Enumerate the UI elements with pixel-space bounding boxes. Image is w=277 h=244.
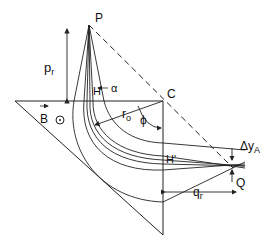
label-q: Q	[236, 176, 245, 190]
label-h: H	[93, 85, 101, 97]
label-p: P	[95, 11, 103, 25]
label-b: B	[40, 112, 48, 126]
label-pr: pr	[44, 60, 54, 77]
label-phi: ϕ	[140, 113, 147, 127]
label-c: C	[167, 87, 176, 101]
ray-bundle	[73, 25, 245, 202]
magnet-optics-diagram: P pr H α C B ro ϕ H' ΔyA Q qr	[0, 0, 277, 244]
label-ro: ro	[122, 107, 131, 123]
label-h-prime: H'	[166, 153, 176, 165]
dashed-line-pq	[89, 25, 233, 168]
label-alpha: α	[111, 82, 118, 94]
label-qr: qr	[193, 185, 203, 201]
label-delta-y: ΔyA	[240, 139, 260, 155]
